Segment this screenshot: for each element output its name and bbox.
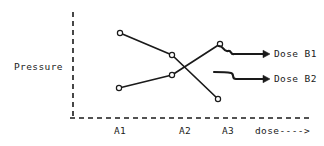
- data-point-marker: [116, 85, 121, 90]
- diagram-canvas: Pressure Dose B1 Dose B2 A1 A2 A3 dose--…: [0, 0, 324, 146]
- y-axis-label: Pressure: [14, 61, 63, 72]
- data-point-marker: [215, 96, 220, 101]
- x-tick-label-a3: A3: [222, 125, 234, 136]
- series-label-dose-b2: Dose B2: [274, 73, 317, 84]
- annotation-leader-dose-b2: [214, 72, 264, 79]
- data-point-marker: [117, 30, 122, 35]
- annotation-leader-dose-b1: [219, 46, 264, 54]
- data-point-marker: [169, 72, 174, 77]
- data-point-marker: [169, 52, 174, 57]
- x-tick-label-a1: A1: [114, 125, 126, 136]
- x-tick-label-a2: A2: [179, 125, 191, 136]
- arrowhead-dose-b2: [263, 75, 270, 83]
- x-axis-label: dose---->: [255, 125, 310, 136]
- series-line-dose-b2: [120, 33, 218, 99]
- line-chart-svg: Pressure Dose B1 Dose B2 A1 A2 A3 dose--…: [0, 0, 324, 146]
- series-line-dose-b1: [119, 44, 220, 88]
- arrowhead-dose-b1: [263, 50, 270, 58]
- series-label-dose-b1: Dose B1: [274, 48, 317, 59]
